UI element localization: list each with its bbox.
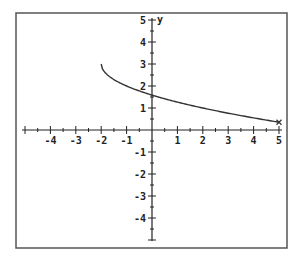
x-tick-label: -1 [121,135,133,146]
y-tick-label: -1 [134,147,146,158]
y-axis-label: y [157,14,163,25]
x-tick-label: 1 [174,135,180,146]
function-curve [101,64,279,122]
x-tick-label: -4 [44,135,56,146]
y-tick-label: 2 [140,81,146,92]
y-tick-label: -2 [134,169,146,180]
y-tick-label: 3 [140,59,146,70]
y-tick-label: 5 [140,15,146,26]
y-tick-label: 1 [140,103,146,114]
y-tick-label: 4 [140,37,146,48]
x-tick-label: -2 [95,135,107,146]
y-tick-label: -4 [134,213,146,224]
x-tick-label: 3 [225,135,231,146]
axes [22,18,282,241]
x-tick-label: 2 [200,135,206,146]
tick-labels: -4-3-2-112345-4-3-2-112345 [44,15,282,224]
y-tick-label: -3 [134,191,146,202]
graph: -4-3-2-112345-4-3-2-112345 y [0,0,298,255]
x-tick-label: 5 [276,135,282,146]
x-tick-label: 4 [251,135,257,146]
x-tick-label: -3 [70,135,82,146]
